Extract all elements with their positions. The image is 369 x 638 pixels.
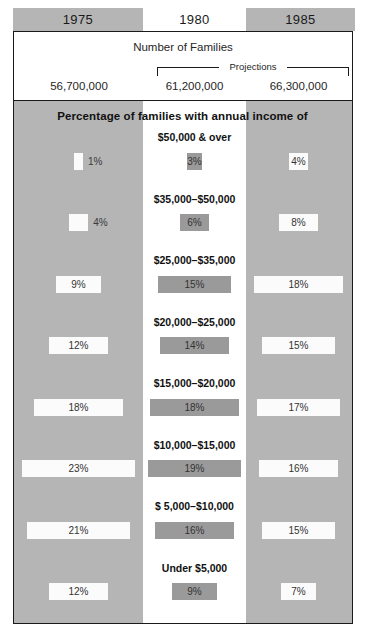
bar-group: 9%15%18% <box>14 274 351 294</box>
bar-group: 21%16%15% <box>14 520 351 540</box>
income-bracket-label: $10,000–$15,000 <box>143 439 246 451</box>
income-bracket-row: $25,000–$35,0009%15%18% <box>14 254 351 310</box>
bar-value-label: 16% <box>288 463 308 474</box>
bar-value-label: 18% <box>288 279 308 290</box>
bar-1980: 19% <box>148 460 241 477</box>
year-header-1980-label: 1980 <box>179 12 210 27</box>
chart-body-heading: Percentage of families with annual incom… <box>14 110 351 122</box>
bar-1975: 12% <box>49 337 108 354</box>
bar-1975: 9% <box>56 276 100 293</box>
bar-1985: 15% <box>262 337 336 354</box>
bar-1985: 4% <box>289 153 309 170</box>
bar-cell-1980: 9% <box>143 582 246 602</box>
bar-value-label: 1% <box>88 156 102 167</box>
bar-value-label: 18% <box>68 402 88 413</box>
bar-cell-1975: 9% <box>14 274 143 294</box>
bar-value-label: 14% <box>184 340 204 351</box>
income-bracket-label: $50,000 & over <box>143 131 246 143</box>
income-bracket-row: $20,000–$25,00012%14%15% <box>14 316 351 372</box>
bar-value-label: 15% <box>288 525 308 536</box>
bar-value-label: 7% <box>291 586 305 597</box>
bar-cell-1975: 4% <box>14 213 143 233</box>
bar-value-label: 4% <box>291 156 305 167</box>
bar-value-label: 3% <box>187 156 201 167</box>
bar-1975 <box>69 214 89 231</box>
income-bracket-label: $25,000–$35,000 <box>143 254 246 266</box>
bar-value-label: 19% <box>184 463 204 474</box>
bar-cell-1980: 18% <box>143 397 246 417</box>
income-bracket-label: $35,000–$50,000 <box>143 193 246 205</box>
year-header-1975: 1975 <box>13 8 143 31</box>
bar-cell-1985: 15% <box>246 336 351 356</box>
income-bracket-label: $15,000–$20,000 <box>143 377 246 389</box>
year-header-band: 1975 1980 1985 <box>13 8 355 31</box>
income-bracket-label: Under $5,000 <box>143 562 246 574</box>
bar-value-label: 12% <box>68 586 88 597</box>
bar-cell-1985: 18% <box>246 274 351 294</box>
bar-group: 18%18%17% <box>14 397 351 417</box>
bar-cell-1985: 17% <box>246 397 351 417</box>
bar-value-label: 23% <box>68 463 88 474</box>
bar-group: 12%14%15% <box>14 336 351 356</box>
bar-1975 <box>74 153 83 170</box>
bar-value-label: 15% <box>184 279 204 290</box>
bar-1980: 6% <box>180 214 209 231</box>
bar-cell-1975: 1% <box>14 151 143 171</box>
bar-cell-1980: 19% <box>143 459 246 479</box>
bar-group: 1%3%4% <box>14 151 351 171</box>
bar-1980: 15% <box>158 276 232 293</box>
number-of-families-panel: Number of Families Projections 56,700,00… <box>13 31 353 101</box>
number-of-families-values: 56,700,000 61,200,000 66,300,000 <box>14 78 352 94</box>
bar-1975: 21% <box>27 522 130 539</box>
chart-body-panel: Percentage of families with annual incom… <box>13 101 353 624</box>
bar-cell-1985: 16% <box>246 459 351 479</box>
bar-value-label: 9% <box>71 279 85 290</box>
year-header-1980: 1980 <box>143 8 246 31</box>
bar-value-label: 8% <box>291 217 305 228</box>
bar-group: 23%19%16% <box>14 459 351 479</box>
bar-1975: 18% <box>34 399 122 416</box>
bar-cell-1985: 7% <box>246 582 351 602</box>
bar-1980: 3% <box>187 153 202 170</box>
bar-cell-1975: 21% <box>14 520 143 540</box>
bar-cell-1975: 18% <box>14 397 143 417</box>
income-bracket-label: $ 5,000–$10,000 <box>143 500 246 512</box>
bar-1985: 8% <box>279 214 318 231</box>
income-bracket-label: $20,000–$25,000 <box>143 316 246 328</box>
income-bracket-row: $35,000–$50,0004%6%8% <box>14 193 351 249</box>
bar-1980: 14% <box>160 337 229 354</box>
bar-1975: 12% <box>49 583 108 600</box>
bar-1985: 16% <box>259 460 337 477</box>
year-header-1975-label: 1975 <box>63 12 94 27</box>
bar-value-label: 18% <box>184 402 204 413</box>
bar-value-label: 4% <box>93 217 107 228</box>
income-bracket-row: $15,000–$20,00018%18%17% <box>14 377 351 433</box>
families-value-1975: 56,700,000 <box>14 78 144 94</box>
bar-value-label: 17% <box>288 402 308 413</box>
bar-1980: 18% <box>150 399 238 416</box>
bar-cell-1980: 3% <box>143 151 246 171</box>
chart-root: 1975 1980 1985 Number of Families Projec… <box>0 0 369 638</box>
families-value-1985: 66,300,000 <box>245 78 352 94</box>
bar-1980: 9% <box>172 583 216 600</box>
bar-value-label: 15% <box>288 340 308 351</box>
bar-value-label: 6% <box>187 217 201 228</box>
bar-cell-1980: 16% <box>143 520 246 540</box>
income-bracket-row: Under $5,00012%9%7% <box>14 562 351 618</box>
income-bracket-row: $50,000 & over1%3%4% <box>14 131 351 187</box>
bar-1985: 15% <box>262 522 336 539</box>
projections-bracket: Projections <box>157 61 349 78</box>
bar-1980: 16% <box>155 522 233 539</box>
bar-1975: 23% <box>22 460 135 477</box>
bar-value-label: 9% <box>187 586 201 597</box>
number-of-families-title: Number of Families <box>14 41 352 53</box>
bar-1985: 7% <box>281 583 315 600</box>
bar-value-label: 16% <box>184 525 204 536</box>
families-value-1980: 61,200,000 <box>144 78 245 94</box>
year-header-1985: 1985 <box>246 8 355 31</box>
bar-value-label: 12% <box>68 340 88 351</box>
bar-cell-1975: 12% <box>14 582 143 602</box>
income-bracket-row: $10,000–$15,00023%19%16% <box>14 439 351 495</box>
bar-group: 4%6%8% <box>14 213 351 233</box>
bar-value-label: 21% <box>68 525 88 536</box>
